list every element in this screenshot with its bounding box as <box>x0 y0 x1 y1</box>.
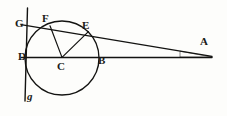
geometry-figure: G F E A D C B g <box>0 0 227 116</box>
point-label-C: C <box>57 61 65 72</box>
figure-canvas <box>0 0 227 116</box>
point-label-D: D <box>18 51 26 62</box>
point-label-E: E <box>82 20 89 31</box>
figure-ink <box>21 8 212 101</box>
radius-C-E <box>62 32 88 58</box>
point-label-F: F <box>42 13 49 24</box>
point-label-A: A <box>200 36 208 47</box>
vertex-A-wedge <box>180 51 212 57</box>
point-label-g: g <box>27 91 33 102</box>
point-label-B: B <box>98 55 105 66</box>
point-label-G: G <box>15 18 24 29</box>
